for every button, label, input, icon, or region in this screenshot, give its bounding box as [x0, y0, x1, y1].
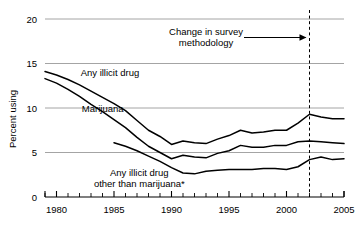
y-tick-label: 10 — [26, 103, 37, 114]
y-tick-label: 5 — [32, 147, 37, 158]
x-axis-tick-group — [45, 191, 344, 197]
series-label: Marijuana — [82, 103, 124, 114]
annotation-text-line2: methodology — [179, 37, 234, 48]
annotation-text-line1: Change in survey — [169, 26, 243, 37]
x-axis-tick-labels: 198019851990199520002005 — [46, 204, 355, 215]
series-line-group — [45, 72, 344, 174]
y-tick-label: 15 — [26, 58, 37, 69]
chart-figure: 198019851990199520002005 05101520 Any il… — [0, 0, 360, 236]
x-tick-label: 1995 — [218, 204, 239, 215]
y-tick-label: 0 — [32, 192, 37, 203]
series-label: Any illicit drug — [81, 67, 140, 78]
x-tick-label: 2005 — [333, 204, 354, 215]
y-axis-tick-labels: 05101520 — [26, 14, 37, 203]
x-tick-label: 2000 — [276, 204, 297, 215]
annotation-arrow-head — [300, 34, 307, 40]
x-tick-label: 1985 — [103, 204, 124, 215]
x-tick-label: 1990 — [161, 204, 182, 215]
x-tick-label: 1980 — [46, 204, 67, 215]
methodology-change-annotation: Change in surveymethodology — [169, 26, 306, 48]
series-inline-labels: Any illicit drugMarijuanaAny illicit dru… — [81, 67, 185, 189]
series-label: Any illicit drug — [110, 167, 169, 178]
y-tick-label: 20 — [26, 14, 37, 25]
series-label: other than marijuana* — [94, 178, 185, 189]
line-chart-canvas: 198019851990199520002005 05101520 Any il… — [0, 0, 360, 236]
y-axis-title: Percent using — [7, 90, 18, 148]
